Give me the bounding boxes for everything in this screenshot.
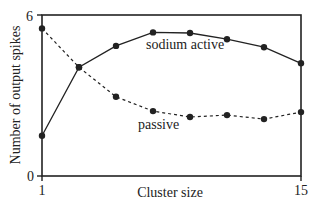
series-label-passive: passive: [138, 117, 179, 132]
data-point: [150, 108, 156, 114]
data-point: [224, 36, 230, 42]
x-tick-label-right: 15: [294, 183, 308, 198]
data-point: [150, 29, 156, 35]
data-point: [298, 109, 304, 115]
data-point: [39, 133, 45, 139]
x-axis-label: Cluster size: [137, 185, 203, 200]
data-point: [76, 64, 82, 70]
line-chart: 6 0 1 15 Cluster size Number of output s…: [0, 0, 323, 207]
y-axis-label: Number of output spikes: [8, 26, 23, 165]
data-point: [187, 114, 193, 120]
data-point: [187, 30, 193, 36]
data-point: [261, 44, 267, 50]
y-tick-label-bottom: 0: [27, 169, 34, 184]
data-point: [261, 116, 267, 122]
data-point: [113, 43, 119, 49]
data-point: [39, 25, 45, 31]
data-point: [224, 112, 230, 118]
x-tick-label-left: 1: [39, 183, 46, 198]
data-point: [113, 94, 119, 100]
y-tick-label-top: 6: [26, 9, 33, 24]
data-point: [298, 60, 304, 66]
series-label-sodium-active: sodium active: [146, 37, 224, 52]
